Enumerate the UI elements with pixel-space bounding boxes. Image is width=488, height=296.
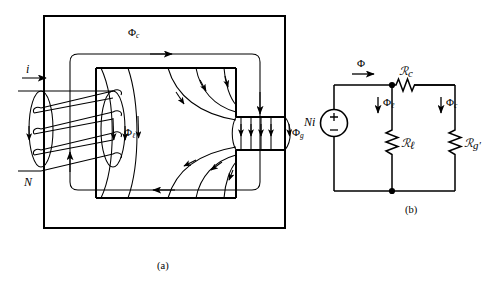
leakage-branch-flux-symbol: Φ <box>383 96 391 108</box>
gap-flux-symbol: Φ <box>292 126 300 138</box>
figure-root: i N Φc Φℓ Φg (a) Ni Φ Φℓ Φc ℛc ℛℓ ℛg′ (b… <box>0 0 488 296</box>
panel-a-caption: (a) <box>157 261 169 272</box>
reluctance-rl-label: ℛℓ <box>401 134 415 151</box>
air-gap-arrow-fringe-right <box>289 124 290 136</box>
total-flux-symbol: Φ <box>357 57 365 69</box>
coil-turn-wire-4 <box>41 154 113 171</box>
coil-hook-back-4 <box>113 153 121 158</box>
core-outer-outline <box>44 16 285 228</box>
reluctance-rg-symbol: ℛ <box>464 136 473 150</box>
gap-flux-label: Φg <box>292 127 304 139</box>
panel-b-caption: (b) <box>405 205 417 216</box>
gap-converging-line-upper-2-arrow <box>200 80 206 91</box>
gap-diverging-line-lower-3 <box>224 162 236 198</box>
coil-hook-back-1 <box>113 90 121 95</box>
reluctance-rg-prime: ′ <box>478 139 480 151</box>
leakage-flux-symbol: Φ <box>124 126 132 138</box>
gap-converging-line-upper-3 <box>224 68 236 105</box>
gap-branch-flux-label: Φc <box>446 97 457 109</box>
panel-b-group <box>321 74 462 194</box>
reluctance-rc-symbol: ℛ <box>399 64 408 78</box>
core-inner-window-outline <box>96 68 236 198</box>
gap-diverging-line-lower-2-arrow <box>211 162 222 170</box>
gap-flux-subscript: g <box>300 131 304 140</box>
core-flux-symbol: Φ <box>128 26 136 38</box>
coil-hook-back-3 <box>113 132 121 137</box>
mmf-source-label: Ni <box>304 116 315 128</box>
total-flux-label: Φ <box>357 58 365 70</box>
gap-branch-flux-subscript: c <box>454 101 457 110</box>
leakage-flux-label: Φℓ <box>124 127 135 139</box>
leakage-branch-flux-label: Φℓ <box>383 97 394 109</box>
leakage-flux-subscript: ℓ <box>132 131 135 140</box>
core-flux-subscript: c <box>136 31 139 40</box>
gap-branch-flux-symbol: Φ <box>446 96 454 108</box>
reluctance-rc-zigzag <box>392 79 455 91</box>
coil-turn-wire-1 <box>41 91 113 108</box>
current-label: i <box>26 63 29 75</box>
reluctance-rl-symbol: ℛ <box>401 136 410 150</box>
air-gap-fringe-left <box>232 117 236 150</box>
reluctance-rl-subscript: ℓ <box>410 139 415 151</box>
panel-a-group <box>18 16 290 228</box>
gap-converging-line-upper-1 <box>168 68 236 120</box>
gap-converging-line-upper-2 <box>196 68 236 112</box>
coil-hook-back-2 <box>113 111 121 116</box>
turns-label: N <box>24 176 32 188</box>
gap-diverging-line-lower-3-arrow <box>229 170 233 180</box>
reluctance-rg-label: ℛg′ <box>464 134 481 151</box>
reluctance-rc-label: ℛc <box>399 62 413 79</box>
leakage-flux-line-2-arrow <box>138 116 139 138</box>
core-flux-label: Φc <box>128 27 139 39</box>
reluctance-rg-zigzag <box>449 126 461 164</box>
node-bottom-junction <box>389 188 395 194</box>
leakage-branch-flux-subscript: ℓ <box>391 101 394 110</box>
leakage-flux-line-1-arrow <box>113 118 114 140</box>
reluctance-rl-zigzag <box>386 126 398 164</box>
reluctance-rc-subscript: c <box>408 67 413 79</box>
leakage-flux-line-1 <box>101 68 112 198</box>
